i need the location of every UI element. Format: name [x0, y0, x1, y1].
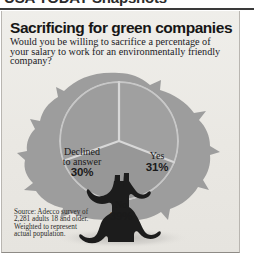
source-note: Source: Adecco survey of 2,281 adults 18… — [14, 209, 114, 239]
pie-label-declined-line2: to answer — [54, 157, 110, 167]
masthead-text: USA TODAY Snapshots — [4, 0, 167, 6]
infographic-panel: Sacrificing for green companies Would yo… — [1, 11, 240, 253]
page-title: Sacrificing for green companies — [10, 20, 225, 36]
source-line-4: actual population. — [14, 231, 114, 238]
pie-value-yes: 31% — [136, 161, 178, 174]
question-text: Would you be willing to sacrifice a perc… — [10, 37, 234, 66]
pie-label-yes: Yes 31% — [136, 151, 178, 174]
pie-label-yes-line1: Yes — [136, 151, 178, 161]
masthead-rule — [0, 8, 254, 10]
snapshot-graphic-page: USA TODAY Snapshots Sacrificing for gree… — [0, 0, 254, 259]
pie-label-declined: Declined to answer 30% — [54, 147, 110, 179]
pie-value-declined: 30% — [54, 166, 110, 179]
